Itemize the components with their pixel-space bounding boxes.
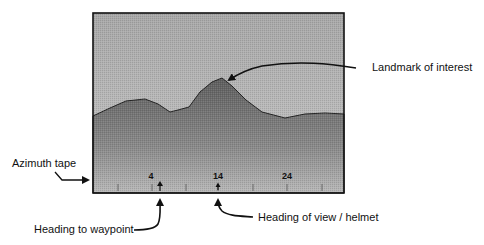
heading-to-waypoint-label: Heading to waypoint (34, 224, 134, 235)
azimuth-label-14: 14 (213, 172, 223, 181)
azimuth-label-4: 4 (148, 172, 153, 181)
view-heading-callout-arrow (218, 200, 253, 217)
azimuth-tape-label: Azimuth tape (12, 158, 76, 169)
landmark-label: Landmark of interest (372, 62, 472, 73)
helmet-display (93, 13, 344, 193)
heading-of-view-label: Heading of view / helmet (258, 212, 378, 223)
waypoint-callout-arrow (134, 200, 160, 230)
azimuth-label-24: 24 (282, 172, 292, 181)
azimuth-tape-callout-arrow (55, 172, 88, 180)
diagram-canvas (0, 0, 484, 245)
